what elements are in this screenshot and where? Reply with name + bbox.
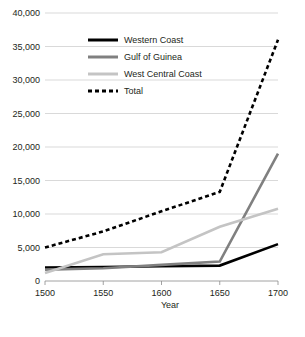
x-axis-ticks-group [45, 281, 278, 285]
legend-label-western-coast: Western Coast [124, 35, 184, 45]
x-axis-tick-label: 1600 [151, 288, 171, 298]
x-axis-title: Year [161, 300, 179, 310]
y-axis-tick-label: 30,000 [12, 75, 40, 85]
legend-label-gulf-of-guinea: Gulf of Guinea [124, 52, 182, 62]
y-axis-tick-label: 40,000 [12, 8, 40, 18]
figure-container: 05,00010,00015,00020,00025,00030,00035,0… [0, 0, 305, 337]
y-axis-tick-label: 5,000 [17, 243, 40, 253]
y-axis-tick-label: 15,000 [12, 176, 40, 186]
y-axis-tick-label: 25,000 [12, 109, 40, 119]
line-chart: 05,00010,00015,00020,00025,00030,00035,0… [0, 0, 305, 337]
legend-label-west-central-coast: West Central Coast [124, 69, 202, 79]
x-axis-tick-label: 1650 [210, 288, 230, 298]
x-axis-tick-label: 1700 [268, 288, 288, 298]
y-axis-tick-label: 20,000 [12, 142, 40, 152]
y-axis-tick-labels: 05,00010,00015,00020,00025,00030,00035,0… [12, 8, 40, 286]
legend-label-total: Total [124, 86, 143, 96]
series-line-west-central-coast [45, 209, 278, 273]
chart-legend: Western CoastGulf of GuineaWest Central … [88, 35, 202, 96]
y-axis-tick-label: 10,000 [12, 209, 40, 219]
x-axis-tick-label: 1500 [35, 288, 55, 298]
y-axis-tick-label: 35,000 [12, 42, 40, 52]
figure-caption [6, 330, 299, 337]
x-axis-tick-labels: 15001550160016501700 [35, 288, 288, 298]
y-axis-tick-label: 0 [35, 276, 40, 286]
x-axis-tick-label: 1550 [93, 288, 113, 298]
